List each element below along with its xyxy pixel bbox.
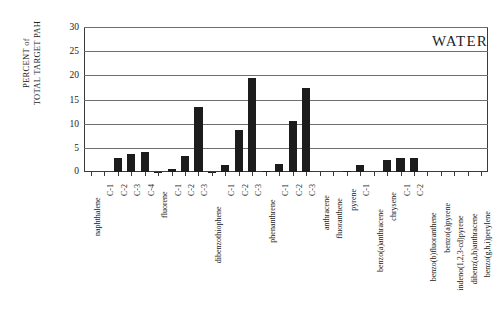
bar-slot bbox=[84, 27, 97, 172]
bar-slot bbox=[178, 27, 191, 172]
category-slot: C-2 bbox=[407, 178, 420, 328]
category-label: benzo(g,h,i)perylene bbox=[484, 211, 492, 277]
y-axis-tick-label: 5 bbox=[74, 148, 79, 149]
bar bbox=[275, 164, 283, 172]
y-axis-tick-label: 30 bbox=[70, 27, 80, 28]
y-axis-tick-label: 0 bbox=[74, 171, 79, 172]
bar bbox=[194, 107, 202, 172]
y-axis-tick-label: 20 bbox=[70, 75, 80, 76]
bar-slot bbox=[165, 27, 178, 172]
bar-slot bbox=[273, 27, 286, 172]
bar-slot bbox=[138, 27, 151, 172]
category-slot: anthracene bbox=[313, 178, 326, 328]
category-slot: benzo(a)pyrene bbox=[434, 178, 447, 328]
bar bbox=[410, 158, 418, 173]
bar bbox=[302, 88, 310, 172]
x-axis-category-labels: naphthaleneC-1C-2C-3C-4fluoreneC-1C-2C-3… bbox=[84, 178, 488, 328]
category-slot: benzo(a)anthracene bbox=[367, 178, 380, 328]
y-axis-tick-label: 25 bbox=[70, 51, 80, 52]
bar bbox=[248, 78, 256, 172]
category-slot: fluorene bbox=[151, 178, 164, 328]
bar-slot bbox=[407, 27, 420, 172]
bar-slot bbox=[192, 27, 205, 172]
bar-slot bbox=[340, 27, 353, 172]
category-slot: C-1 bbox=[394, 178, 407, 328]
category-slot: fluoranthene bbox=[326, 178, 339, 328]
bar-slot bbox=[97, 27, 110, 172]
bar bbox=[396, 158, 404, 173]
category-slot: C-3 bbox=[192, 178, 205, 328]
bar bbox=[235, 130, 243, 172]
bar-slot bbox=[300, 27, 313, 172]
category-slot: C-1 bbox=[273, 178, 286, 328]
bar-slot bbox=[232, 27, 245, 172]
bar bbox=[114, 158, 122, 172]
category-slot: C-3 bbox=[300, 178, 313, 328]
category-slot: phenanthrene bbox=[259, 178, 272, 328]
bar bbox=[356, 165, 364, 172]
bar-slot bbox=[259, 27, 272, 172]
bar-slot bbox=[111, 27, 124, 172]
bar bbox=[181, 156, 189, 172]
bar-slot bbox=[313, 27, 326, 172]
category-slot: C-1 bbox=[97, 178, 110, 328]
category-slot: benzo(g,h,i)perylene bbox=[475, 178, 488, 328]
category-slot: dibenz(a,h)anthracene bbox=[461, 178, 474, 328]
bar-slot bbox=[124, 27, 137, 172]
bar-slot bbox=[151, 27, 164, 172]
bar bbox=[221, 165, 229, 172]
bar bbox=[289, 121, 297, 172]
category-slot: dibenzothiophene bbox=[205, 178, 218, 328]
category-slot: C-2 bbox=[232, 178, 245, 328]
category-slot: C-1 bbox=[353, 178, 366, 328]
category-slot: C-1 bbox=[219, 178, 232, 328]
category-slot: C-2 bbox=[111, 178, 124, 328]
bar-slot bbox=[246, 27, 259, 172]
bar-slot bbox=[286, 27, 299, 172]
bar-slot bbox=[353, 27, 366, 172]
water-annotation: WATER bbox=[432, 33, 488, 50]
bar bbox=[141, 152, 149, 172]
bar-slot bbox=[394, 27, 407, 172]
category-slot: naphthalene bbox=[84, 178, 97, 328]
category-slot: indeno(1,2,3-cd)pyrene bbox=[448, 178, 461, 328]
bar-slot bbox=[380, 27, 393, 172]
category-slot: pyrene bbox=[340, 178, 353, 328]
y-axis-title: PERCENT of TOTAL TARGET PAH bbox=[21, 0, 43, 133]
bar bbox=[127, 154, 135, 172]
category-slot: C-3 bbox=[246, 178, 259, 328]
category-slot: C-2 bbox=[286, 178, 299, 328]
category-slot: C-1 bbox=[165, 178, 178, 328]
chart-figure: PERCENT of TOTAL TARGET PAH 302520151050… bbox=[0, 0, 504, 330]
category-slot: benzo(b)fluoranthene bbox=[421, 178, 434, 328]
y-axis-tick-label: 10 bbox=[70, 124, 80, 125]
bar-slot bbox=[326, 27, 339, 172]
y-axis-tick-label: 15 bbox=[70, 100, 80, 101]
category-slot: C-3 bbox=[124, 178, 137, 328]
bar-slot bbox=[219, 27, 232, 172]
category-slot: C-2 bbox=[178, 178, 191, 328]
category-slot: chrysene bbox=[380, 178, 393, 328]
category-slot: C-4 bbox=[138, 178, 151, 328]
